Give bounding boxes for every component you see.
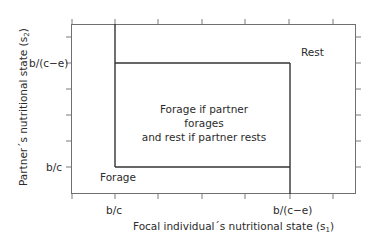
region-label-middle: Forage if partner forages and rest if pa… — [140, 102, 268, 144]
y-tick-label-upper: b/(c−e) — [29, 57, 68, 69]
y-tick-label-lower: b/c — [46, 161, 62, 173]
top-ticks — [72, 19, 333, 24]
region-label-forage: Forage — [100, 171, 136, 183]
x-tick-label-lower: b/c — [106, 204, 122, 216]
region-label-rest: Rest — [301, 46, 324, 58]
x-axis-title-end: ) — [330, 220, 334, 232]
y-axis-title-text: Partner´s nutritional state (s — [17, 37, 29, 186]
region-label-middle-line1: Forage if partner forages — [140, 102, 268, 130]
y-axis-title: Partner´s nutritional state (s2) — [17, 28, 31, 186]
x-axis-title: Focal individual´s nutritional state (s1… — [133, 220, 334, 236]
x-axis-title-text: Focal individual´s nutritional state (s — [133, 220, 326, 232]
right-ticks — [356, 37, 361, 167]
bottom-ticks — [72, 194, 333, 199]
region-label-middle-line2: and rest if partner rests — [140, 130, 268, 144]
y-axis-title-end: ) — [17, 28, 29, 32]
y-axis-title-sub: 2 — [23, 32, 31, 36]
x-tick-label-upper: b/(c−e) — [273, 204, 312, 216]
